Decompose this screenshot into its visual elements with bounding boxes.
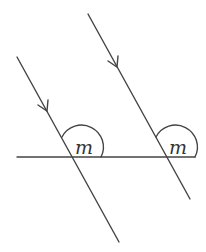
diagram-canvas: m m	[0, 0, 206, 252]
left-angle-label: m	[75, 138, 93, 157]
diagram-svg	[0, 0, 206, 252]
right-arrow-icon	[108, 56, 118, 67]
right-parallel-line	[88, 14, 190, 199]
right-angle-label: m	[169, 138, 187, 157]
